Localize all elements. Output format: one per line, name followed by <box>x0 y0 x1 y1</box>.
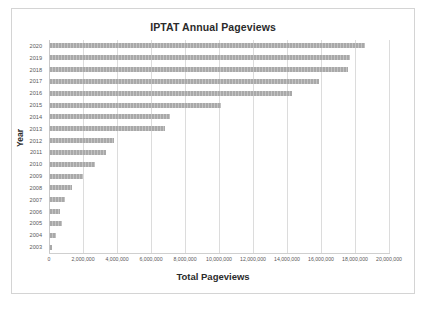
bar-2004 <box>49 233 56 238</box>
bar-row <box>49 52 389 64</box>
x-tick-label: 4,000,000 <box>105 256 128 262</box>
y-tick-label-2013: 2013 <box>30 126 42 132</box>
x-tick-label: 0 <box>48 256 51 262</box>
x-tick-label: 8,000,000 <box>173 256 196 262</box>
y-tick-label-2012: 2012 <box>30 138 42 144</box>
chart-title: IPTAT Annual Pageviews <box>12 21 414 33</box>
bar-2014 <box>49 114 170 119</box>
x-axis-line <box>49 253 390 254</box>
bar-row <box>49 76 389 88</box>
x-axis-tick-labels: 02,000,0004,000,0006,000,0008,000,00010,… <box>49 256 389 268</box>
y-tick-label-2019: 2019 <box>30 55 42 61</box>
x-tick-label: 10,000,000 <box>206 256 232 262</box>
bar-row <box>49 99 389 111</box>
bar-2011 <box>49 150 106 155</box>
bar-2008 <box>49 185 72 190</box>
bar-2005 <box>49 221 62 226</box>
bar-row <box>49 229 389 241</box>
bar-row <box>49 135 389 147</box>
y-tick-label-2017: 2017 <box>30 78 42 84</box>
bar-2006 <box>49 209 60 214</box>
x-tick-label: 18,000,000 <box>342 256 368 262</box>
bar-row <box>49 182 389 194</box>
x-tick-label: 12,000,000 <box>240 256 266 262</box>
x-tick-label: 14,000,000 <box>274 256 300 262</box>
bar-2016 <box>49 91 292 96</box>
bar-row <box>49 123 389 135</box>
bar-row <box>49 170 389 182</box>
bar-2012 <box>49 138 114 143</box>
x-tick-label: 2,000,000 <box>71 256 94 262</box>
bar-2010 <box>49 162 95 167</box>
y-tick-label-2011: 2011 <box>30 149 42 155</box>
x-tick-label: 6,000,000 <box>139 256 162 262</box>
bar-2017 <box>49 79 319 84</box>
bar-row <box>49 218 389 230</box>
bar-2007 <box>49 197 65 202</box>
bar-row <box>49 206 389 218</box>
bar-row <box>49 111 389 123</box>
bar-row <box>49 40 389 52</box>
chart-figure: IPTAT Annual Pageviews Year 202020192018… <box>11 8 415 294</box>
bar-row <box>49 158 389 170</box>
bar-2013 <box>49 126 165 131</box>
y-tick-label-2016: 2016 <box>30 90 42 96</box>
bar-2020 <box>49 43 365 48</box>
bar-2009 <box>49 174 83 179</box>
bar-row <box>49 194 389 206</box>
y-tick-label-2004: 2004 <box>30 232 42 238</box>
bar-2015 <box>49 103 221 108</box>
y-tick-label-2010: 2010 <box>30 161 42 167</box>
y-tick-label-2006: 2006 <box>30 209 42 215</box>
bar-row <box>49 87 389 99</box>
bar-row <box>49 64 389 76</box>
y-axis-tick-labels: 2020201920182017201620152014201320122011… <box>12 40 46 253</box>
y-tick-label-2015: 2015 <box>30 102 42 108</box>
bar-series <box>49 40 389 253</box>
y-tick-label-2007: 2007 <box>30 197 42 203</box>
x-tick-label: 16,000,000 <box>308 256 334 262</box>
bar-row <box>49 241 389 253</box>
x-axis-title: Total Pageviews <box>12 271 414 282</box>
y-tick-label-2003: 2003 <box>30 244 42 250</box>
y-tick-label-2005: 2005 <box>30 220 42 226</box>
bar-2018 <box>49 67 348 72</box>
y-tick-label-2018: 2018 <box>30 67 42 73</box>
y-tick-label-2020: 2020 <box>30 43 42 49</box>
y-tick-label-2009: 2009 <box>30 173 42 179</box>
y-tick-label-2014: 2014 <box>30 114 42 120</box>
bar-2003 <box>49 245 52 250</box>
bar-row <box>49 147 389 159</box>
x-tick-label: 20,000,000 <box>376 256 402 262</box>
y-tick-label-2008: 2008 <box>30 185 42 191</box>
gridline <box>389 40 390 253</box>
bar-2019 <box>49 55 350 60</box>
plot-area <box>49 40 389 253</box>
